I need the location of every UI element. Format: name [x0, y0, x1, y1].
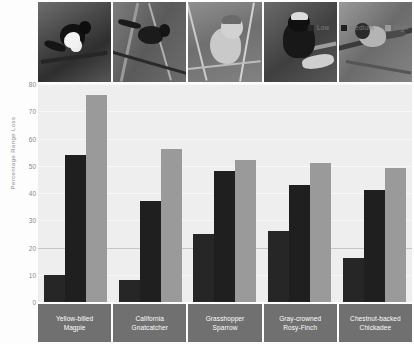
y-axis-tick-label: 70: [16, 108, 36, 115]
legend-item-high[interactable]: High: [385, 24, 408, 31]
gridline: [38, 302, 412, 303]
bar-high[interactable]: [310, 163, 331, 302]
bird-photo-magpie: [38, 2, 111, 82]
bird-head-shape: [79, 21, 91, 34]
bird-photo-rosy-finch: [264, 2, 337, 82]
x-axis-label-4: Chestnut-backedChickadee: [339, 304, 412, 342]
x-axis-label-1: CaliforniaGnatcatcher: [113, 304, 186, 342]
legend-label: High: [394, 24, 408, 31]
bar-low[interactable]: [119, 280, 140, 302]
legend-item-low[interactable]: Low: [308, 24, 330, 31]
bar-low[interactable]: [193, 234, 214, 302]
bar-group: [188, 84, 263, 302]
legend-swatch-icon: [341, 25, 347, 31]
x-axis-label-line: Grasshopper: [206, 314, 245, 323]
bar-high[interactable]: [235, 160, 256, 302]
bar-group: [337, 84, 412, 302]
bar-low[interactable]: [268, 231, 289, 302]
bird-photo-strip: [38, 2, 412, 82]
bird-crown-shape: [291, 12, 307, 20]
bar-medium[interactable]: [214, 171, 235, 302]
x-axis-category-labels: Yellow-billedMagpieCaliforniaGnatcatcher…: [38, 304, 412, 342]
bar-groups: [38, 84, 412, 302]
bar-low[interactable]: [343, 258, 364, 302]
x-axis-label-2: GrasshopperSparrow: [188, 304, 261, 342]
x-axis-label-line: Chickadee: [350, 323, 401, 332]
bar-high[interactable]: [161, 149, 182, 302]
bar-group: [113, 84, 188, 302]
x-axis-label-line: Magpie: [56, 323, 93, 332]
legend-item-medium[interactable]: Medium: [341, 24, 374, 31]
x-axis-label-line: Gnatcatcher: [132, 323, 169, 332]
bird-photo-gnatcatcher: [113, 2, 186, 82]
bar-medium[interactable]: [65, 155, 86, 302]
x-axis-label-line: California: [132, 314, 169, 323]
y-axis-tick-label: 10: [16, 271, 36, 278]
y-axis-tick-label: 20: [16, 244, 36, 251]
bar-medium[interactable]: [364, 190, 385, 302]
plot-area: [38, 84, 412, 302]
y-axis-tick-label: 40: [16, 190, 36, 197]
y-axis-tick-label: 80: [16, 81, 36, 88]
bar-group: [262, 84, 337, 302]
bar-group: [38, 84, 113, 302]
bar-high[interactable]: [86, 95, 107, 302]
y-axis-tick-label: 60: [16, 135, 36, 142]
x-axis-label-line: Rosy-Finch: [279, 323, 321, 332]
legend: LowMediumHigh: [308, 24, 408, 31]
y-axis-ticks: 01020304050607080: [16, 84, 36, 302]
bar-medium[interactable]: [140, 201, 161, 302]
bird-photo-sparrow: [188, 2, 261, 82]
bar-low[interactable]: [44, 275, 65, 302]
bird-crown-shape: [222, 15, 241, 25]
x-axis-label-line: Sparrow: [206, 323, 245, 332]
legend-label: Medium: [350, 24, 374, 31]
legend-swatch-icon: [385, 25, 391, 31]
bar-high[interactable]: [385, 168, 406, 302]
x-axis-label-0: Yellow-billedMagpie: [38, 304, 111, 342]
x-axis-label-line: Gray-crowned: [279, 314, 321, 323]
bird-photo-chickadee: [339, 2, 412, 82]
bar-medium[interactable]: [289, 185, 310, 302]
legend-swatch-icon: [308, 25, 314, 31]
y-axis-tick-label: 30: [16, 217, 36, 224]
x-axis-label-3: Gray-crownedRosy-Finch: [264, 304, 337, 342]
x-axis-label-line: Chestnut-backed: [350, 314, 401, 323]
legend-label: Low: [317, 24, 330, 31]
y-axis-tick-label: 50: [16, 162, 36, 169]
y-axis-tick-label: 0: [16, 299, 36, 306]
x-axis-label-line: Yellow-billed: [56, 314, 93, 323]
bird-range-loss-figure: Percentage Range Loss 01020304050607080 …: [0, 0, 414, 344]
